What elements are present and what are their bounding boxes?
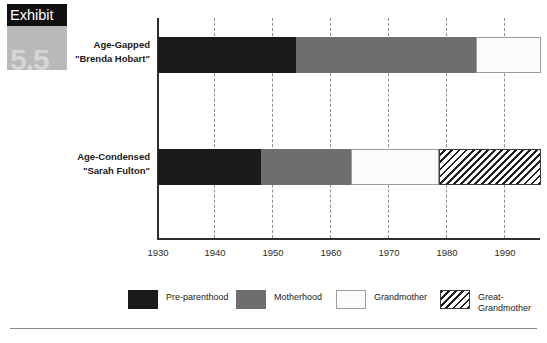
- chart-plot-area: [157, 18, 540, 240]
- row-label-age-gapped-line2: "Brenda Hobart": [30, 52, 150, 66]
- x-tick-label-1940: 1940: [195, 247, 235, 258]
- row-label-age-gapped-line1: Age-Gapped: [94, 39, 150, 50]
- row-label-age-condensed: Age-Condensed "Sarah Fulton": [30, 150, 150, 178]
- bar-segment-great-grandmother[interactable]: [439, 149, 541, 185]
- bar-segment-motherhood[interactable]: [296, 37, 476, 73]
- bar-segment-motherhood[interactable]: [261, 149, 351, 185]
- chart-legend: Pre-parenthood Motherhood Grandmother Gr…: [128, 289, 528, 321]
- legend-swatch-great-grandmother: [440, 290, 470, 309]
- x-axis-line: [157, 238, 540, 240]
- x-tick-label-1960: 1960: [311, 247, 351, 258]
- bar-age-condensed: [158, 149, 540, 185]
- x-tick-label-1930: 1930: [138, 247, 178, 258]
- x-tick-label-1950: 1950: [253, 247, 293, 258]
- legend-label-great-line1: Great-: [478, 292, 504, 302]
- bar-segment-grandmother[interactable]: [351, 149, 439, 185]
- legend-label-great-grandmother: Great-Grandmother: [478, 292, 547, 314]
- x-tick-label-1970: 1970: [369, 247, 409, 258]
- x-tick-label-1980: 1980: [427, 247, 467, 258]
- legend-swatch-pre-parenthood: [128, 290, 158, 309]
- bar-segment-grandmother[interactable]: [476, 37, 541, 73]
- legend-label-great-line2: Grandmother: [478, 303, 531, 313]
- bottom-divider: [10, 328, 537, 329]
- bar-segment-pre-parenthood[interactable]: [158, 37, 296, 73]
- exhibit-word-banner: Exhibit: [7, 4, 67, 26]
- bar-age-gapped: [158, 37, 540, 73]
- row-label-age-condensed-line2: "Sarah Fulton": [30, 164, 150, 178]
- legend-swatch-grandmother: [336, 290, 366, 309]
- row-label-age-condensed-line1: Age-Condensed: [77, 151, 150, 162]
- bar-segment-pre-parenthood[interactable]: [158, 149, 261, 185]
- x-tick-label-1990: 1990: [485, 247, 525, 258]
- legend-swatch-motherhood: [236, 290, 266, 309]
- row-label-age-gapped: Age-Gapped "Brenda Hobart": [30, 38, 150, 66]
